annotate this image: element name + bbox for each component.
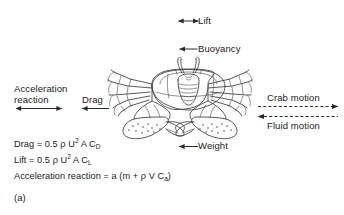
lift-equation: Lift = 0.5 ρ U2 A CL — [14, 155, 92, 166]
acceleration-reaction-equation-coefficient-subscript: a — [164, 175, 168, 182]
lift-equation-equals: = — [29, 155, 34, 165]
acceleration-reaction-equation-lhs: Acceleration reaction — [14, 171, 101, 181]
lift-equation-coefficient-subscript: L — [88, 159, 92, 166]
acceleration-reaction-equation-equals: = — [103, 171, 108, 181]
acceleration-reaction-equation-rho: ρ — [141, 171, 146, 181]
force-diagram-figure: Lift Buoyancy Weight Acceleration reacti… — [0, 0, 344, 215]
acceleration-reaction-equation: Acceleration reaction = a (m + ρ V Ca) — [14, 171, 171, 182]
drag-equation-coefficient: 0.5 — [45, 139, 58, 149]
drag-equation-velocity: U — [68, 139, 75, 149]
drag-equation-area: A — [81, 139, 87, 149]
acceleration-reaction-equation-close-paren: ) — [168, 171, 171, 181]
crab-body-group — [108, 57, 252, 138]
lift-equation-coefficient: 0.5 — [37, 155, 50, 165]
crab-carapace — [152, 69, 225, 110]
buoyancy-label: Buoyancy — [198, 43, 241, 55]
drag-equation-equals: = — [37, 139, 42, 149]
acceleration-reaction-equation-accel: a — [112, 171, 117, 181]
fluid-motion-label: Fluid motion — [267, 120, 320, 132]
lift-equation-lhs: Lift — [14, 155, 26, 165]
weight-label: Weight — [198, 140, 228, 152]
drag-label: Drag — [82, 94, 103, 106]
acceleration-reaction-label-line1: Acceleration — [14, 83, 67, 95]
drag-equation-rho: ρ — [60, 139, 65, 149]
crab-illustration — [0, 0, 344, 215]
crab-motion-label: Crab motion — [267, 92, 320, 104]
acceleration-reaction-equation-mass: m — [122, 171, 130, 181]
drag-equation-lhs: Drag — [14, 139, 34, 149]
drag-equation-velocity-exponent: 2 — [75, 137, 79, 144]
lift-equation-area: A — [73, 155, 79, 165]
lift-equation-rho: ρ — [53, 155, 58, 165]
drag-equation-coefficient-symbol: C — [89, 139, 96, 149]
lift-label: Lift — [198, 15, 211, 27]
drag-equation-coefficient-subscript: D — [96, 143, 101, 150]
acceleration-reaction-label-line2: reaction — [14, 94, 49, 106]
acceleration-reaction-equation-plus: + — [133, 171, 138, 181]
panel-label: (a) — [14, 192, 26, 203]
lift-equation-coefficient-symbol: C — [81, 155, 88, 165]
acceleration-reaction-equation-volume: V — [149, 171, 155, 181]
drag-equation: Drag = 0.5 ρ U2 A CD — [14, 139, 100, 150]
lift-equation-velocity-exponent: 2 — [67, 153, 71, 160]
